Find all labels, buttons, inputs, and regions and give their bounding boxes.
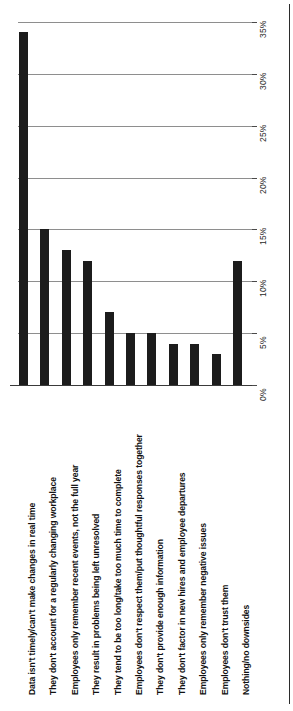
tick-mark [252,74,257,75]
tick-mark [252,333,257,334]
category-label: Employees don't trust them [220,585,230,695]
y-axis-tick-label: 0% [258,367,268,401]
category-label: Employees don't respect them/put thought… [134,434,144,695]
y-axis-tick-label: 10% [258,263,268,297]
bar [169,344,178,385]
bar [233,261,242,385]
bar [212,354,221,385]
category-label: They don't factor in new hires and emplo… [177,472,187,695]
category-label: Employees only remember recent events, n… [70,465,80,695]
tick-mark [252,22,257,23]
category-axis-labels: Data isn't timely/can't make changes in … [0,390,255,710]
bar-series [0,0,255,400]
bar-chart: 0%5%10%15%20%25%30%35% Data isn't timely… [0,0,293,711]
category-label: They result in problems being left unres… [91,514,101,695]
category-label: Employees only remember negative issues [198,523,208,695]
bar [126,333,135,385]
bar [105,312,114,385]
y-axis-tick-label: 25% [258,108,268,142]
bar [190,344,199,385]
bar [62,250,71,385]
tick-mark [252,281,257,282]
tick-mark [252,385,257,386]
figure-right-rule [289,4,290,704]
y-axis-tick-label: 20% [258,160,268,194]
y-axis-tick-label: 35% [258,4,268,38]
category-label: Nothing/no downsides [241,605,251,695]
tick-mark [252,229,257,230]
bar [83,261,92,385]
y-axis-tick-label: 5% [258,315,268,349]
y-axis-tick-label: 15% [258,211,268,245]
category-label: They don't account for a regularly chang… [48,477,58,695]
tick-mark [252,126,257,127]
plot-area: 0%5%10%15%20%25%30%35% [0,0,255,400]
bar [40,229,49,385]
category-label: Data isn't timely/can't make changes in … [27,503,37,695]
bar [147,333,156,385]
tick-mark [252,178,257,179]
category-label: They don't provide enough information [155,539,165,695]
y-axis-tick-label: 30% [258,56,268,90]
category-label: They tend to be too long/take too much t… [113,469,123,695]
bar [19,32,28,385]
